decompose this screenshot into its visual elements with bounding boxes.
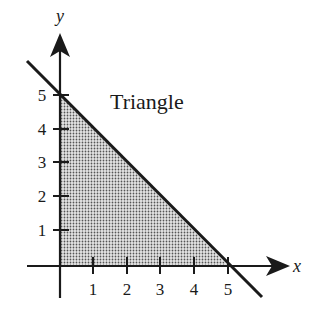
y-tick-label-3: 3: [38, 153, 47, 172]
y-tick-label-4: 4: [38, 120, 47, 139]
y-axis-label: y: [54, 6, 64, 26]
y-tick-label-5: 5: [38, 86, 47, 105]
y-tick-label-2: 2: [38, 187, 47, 206]
x-tick-label-4: 4: [190, 280, 199, 299]
y-tick-label-1: 1: [38, 221, 47, 240]
region-label: Triangle: [110, 89, 184, 114]
x-axis-label: x: [292, 256, 301, 276]
x-tick-label-5: 5: [224, 280, 233, 299]
triangle-diagram: 1 2 3 4 5 5 4 3 2 1 x y Triangle: [0, 0, 309, 310]
x-tick-label-3: 3: [156, 280, 165, 299]
x-tick-label-1: 1: [89, 280, 98, 299]
x-tick-label-2: 2: [123, 280, 132, 299]
